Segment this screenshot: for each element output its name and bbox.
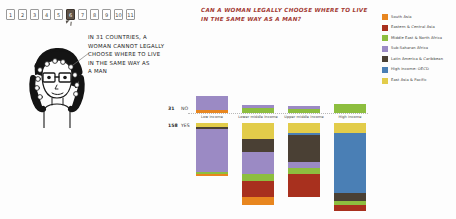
column-label: Lower middle income [236, 115, 280, 119]
bar-no-upper-middle-income[interactable] [288, 106, 320, 113]
speech-line-5: A MAN [88, 67, 176, 76]
bar-segment [334, 123, 366, 133]
bar-no-low-income[interactable] [196, 96, 228, 113]
bar-yes-lower-middle-income[interactable] [242, 123, 274, 205]
legend-item[interactable]: South Asia [382, 12, 454, 22]
legend-swatch-icon [382, 35, 388, 41]
bar-segment [242, 181, 274, 197]
bar-segment [334, 205, 366, 211]
legend-swatch-icon [382, 67, 388, 73]
chart-column: Lower middle income [242, 96, 274, 208]
legend-label: High income: OECD [391, 67, 429, 72]
slide-tab-11[interactable]: 11 [126, 9, 135, 20]
bar-segment [242, 108, 274, 113]
answer-label-yes: YES [181, 123, 190, 128]
bar-segment [334, 193, 366, 201]
slide-tab-7[interactable]: 7 [78, 9, 87, 20]
slide-canvas: 1234567891011 [0, 0, 456, 219]
chart-column: High income [334, 96, 366, 208]
bar-segment [196, 96, 228, 110]
bar-segment [196, 174, 228, 176]
legend-item[interactable]: Middle East & North Africa [382, 33, 454, 43]
slide-tab-6[interactable]: 6 [66, 9, 75, 20]
bar-yes-upper-middle-income[interactable] [288, 123, 320, 197]
legend-swatch-icon [382, 56, 388, 62]
legend-label: South Asia [391, 15, 412, 20]
bar-segment [288, 135, 320, 162]
legend-label: Sub-Saharan Africa [391, 46, 428, 51]
answer-count-yes: 158 [168, 123, 178, 128]
chart-column: Low income [196, 96, 228, 208]
bar-segment [242, 197, 274, 205]
answer-count-no: 31 [168, 106, 174, 111]
column-label: High income [328, 115, 372, 119]
legend-swatch-icon [382, 78, 388, 84]
chart-title: Can a woman legally choose where to live… [201, 6, 373, 24]
slide-tab-3[interactable]: 3 [30, 9, 39, 20]
slide-tab-4[interactable]: 4 [42, 9, 51, 20]
legend-item[interactable]: Sub-Saharan Africa [382, 44, 454, 54]
bar-no-lower-middle-income[interactable] [242, 105, 274, 113]
bar-segment [196, 129, 228, 172]
legend-swatch-icon [382, 14, 388, 20]
column-label: Upper middle income [282, 115, 326, 119]
speech-line-3: CHOOSE WHERE TO LIVE [88, 50, 176, 59]
stacked-bar-chart: 31NO158YES Low incomeLower middle income… [168, 96, 368, 208]
bar-segment [288, 123, 320, 133]
slide-tab-8[interactable]: 8 [90, 9, 99, 20]
bar-segment [334, 133, 366, 193]
legend-label: Eastern & Central Asia [391, 25, 435, 30]
legend-item[interactable]: Latin America & Caribbean [382, 54, 454, 64]
slide-tab-1[interactable]: 1 [6, 9, 15, 20]
legend-item[interactable]: High income: OECD [382, 65, 454, 75]
bar-segment [334, 104, 366, 113]
legend-label: Latin America & Caribbean [391, 57, 443, 62]
bar-segment [288, 174, 320, 197]
slide-tab-10[interactable]: 10 [114, 9, 123, 20]
answer-label-no: NO [181, 106, 188, 111]
chart-column: Upper middle income [288, 96, 320, 208]
slide-tabstrip[interactable]: 1234567891011 [6, 9, 135, 20]
speech-line-1: IN 31 COUNTRIES, A [88, 33, 176, 42]
speech-line-2: WOMAN CANNOT LEGALLY [88, 42, 176, 51]
legend-label: East Asia & Pacific [391, 78, 427, 83]
speech-line-4: IN THE SAME WAY AS [88, 59, 176, 68]
bar-no-high-income[interactable] [334, 104, 366, 113]
chart-legend: South AsiaEastern & Central AsiaMiddle E… [382, 12, 454, 86]
bar-segment [242, 123, 274, 139]
legend-label: Middle East & North Africa [391, 36, 442, 41]
bar-segment [242, 139, 274, 153]
legend-item[interactable]: East Asia & Pacific [382, 76, 454, 86]
bar-yes-high-income[interactable] [334, 123, 366, 211]
slide-tab-5[interactable]: 5 [54, 9, 63, 20]
chart-columns: Low incomeLower middle incomeUpper middl… [196, 96, 368, 208]
legend-item[interactable]: Eastern & Central Asia [382, 23, 454, 33]
slide-tab-2[interactable]: 2 [18, 9, 27, 20]
column-label: Low income [190, 115, 234, 119]
bar-yes-low-income[interactable] [196, 123, 228, 176]
speech-text: IN 31 COUNTRIES, A WOMAN CANNOT LEGALLY … [88, 33, 176, 76]
mouse-cursor-icon [66, 19, 73, 23]
slide-tab-9[interactable]: 9 [102, 9, 111, 20]
bar-segment [196, 110, 228, 113]
bar-segment [242, 174, 274, 182]
legend-swatch-icon [382, 46, 388, 52]
bar-segment [288, 109, 320, 113]
bar-segment [242, 152, 274, 173]
legend-swatch-icon [382, 25, 388, 31]
